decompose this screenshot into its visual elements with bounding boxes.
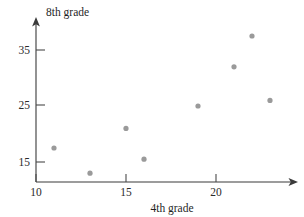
data-point xyxy=(195,103,200,108)
data-point xyxy=(87,171,92,176)
x-tick-label-15: 15 xyxy=(120,186,132,198)
y-tick-label-35: 35 xyxy=(19,44,31,56)
scatter-points-group xyxy=(51,33,272,175)
data-point xyxy=(123,126,128,131)
y-tick-label-15: 15 xyxy=(19,156,31,168)
x-tick-label-10: 10 xyxy=(30,186,42,198)
x-axis-title: 4th grade xyxy=(150,202,193,215)
data-point xyxy=(141,157,146,162)
data-point xyxy=(51,145,56,150)
scatter-plot-figure: 35 25 15 10 15 20 8th grade 4th grade xyxy=(0,0,304,217)
x-tick-label-20: 20 xyxy=(210,186,222,198)
data-point xyxy=(249,33,254,38)
data-point xyxy=(231,64,236,69)
y-tick-label-25: 25 xyxy=(19,99,31,111)
y-axis-title: 8th grade xyxy=(46,6,89,19)
chart-canvas: 35 25 15 10 15 20 8th grade 4th grade xyxy=(0,0,304,217)
data-point xyxy=(267,98,272,103)
